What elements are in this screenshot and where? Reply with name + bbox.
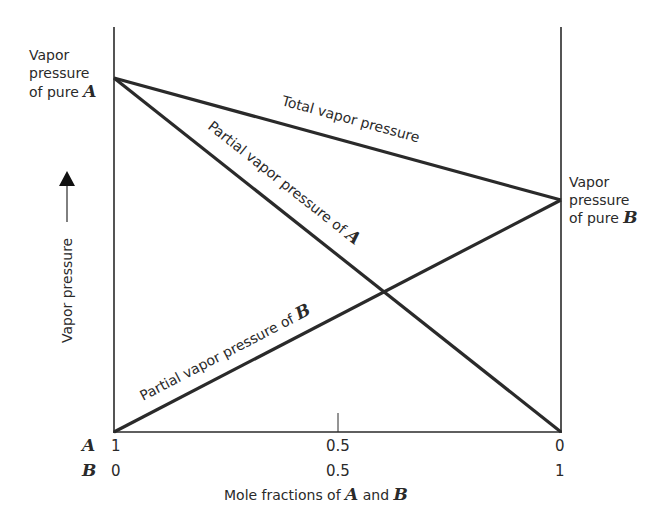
vapor-pressure-diagram: Vapor pressure of pure A Vapor pressure … bbox=[0, 0, 668, 524]
svg-text:Vapor: Vapor bbox=[569, 174, 610, 190]
svg-text:of pure A: of pure A bbox=[29, 81, 96, 101]
partial-a-label: Partial vapor pressure of A bbox=[205, 115, 366, 248]
svg-text:0: 0 bbox=[111, 462, 121, 480]
svg-text:1: 1 bbox=[111, 437, 121, 455]
pure-a-annotation: Vapor pressure of pure A bbox=[29, 47, 96, 101]
svg-text:A: A bbox=[80, 435, 95, 455]
svg-text:0.5: 0.5 bbox=[326, 437, 350, 455]
svg-text:pressure: pressure bbox=[569, 192, 629, 208]
svg-text:of pure B: of pure B bbox=[569, 207, 638, 227]
total-vapor-pressure-label: Total vapor pressure bbox=[279, 92, 421, 145]
svg-text:Vapor pressure: Vapor pressure bbox=[59, 238, 75, 343]
pure-b-annotation: Vapor pressure of pure B bbox=[569, 174, 638, 227]
total-vapor-pressure-line bbox=[114, 78, 561, 200]
svg-text:B: B bbox=[81, 460, 96, 480]
x-axis-ticks: A B 1 0.5 0 0 0.5 1 bbox=[80, 435, 565, 480]
svg-text:pressure: pressure bbox=[29, 65, 89, 81]
svg-text:1: 1 bbox=[555, 462, 565, 480]
svg-text:0.5: 0.5 bbox=[326, 462, 350, 480]
y-axis-label: Vapor pressure bbox=[59, 171, 75, 343]
up-arrow-icon bbox=[59, 171, 75, 186]
svg-text:0: 0 bbox=[555, 437, 565, 455]
x-axis-label: Mole fractions of A and B bbox=[224, 484, 408, 504]
svg-text:Vapor: Vapor bbox=[29, 47, 70, 63]
partial-b-label: Partial vapor pressure of B bbox=[136, 299, 314, 404]
